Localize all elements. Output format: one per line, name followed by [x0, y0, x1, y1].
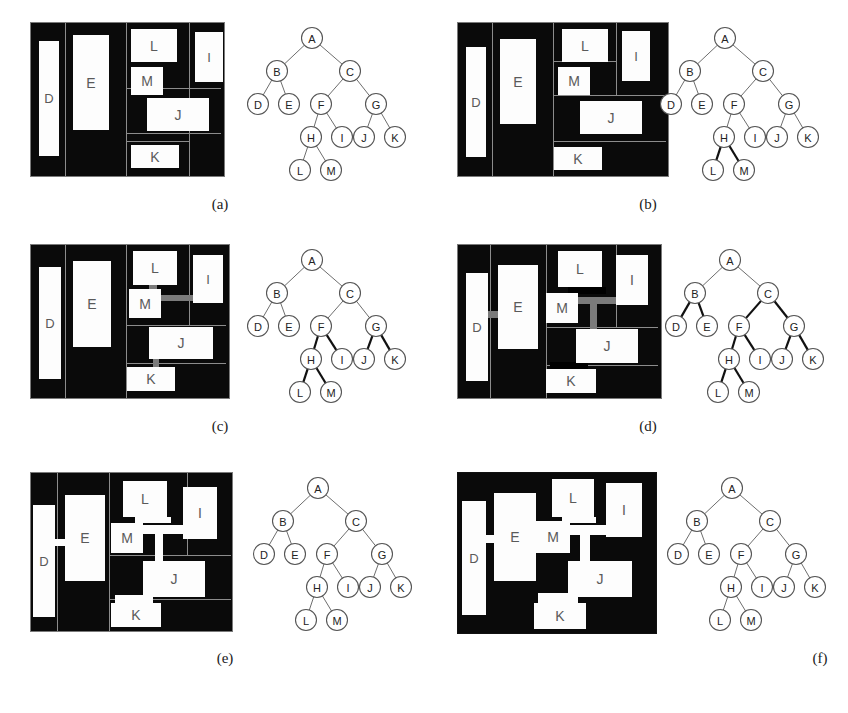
floorplan-block-J[interactable]: J [143, 561, 205, 597]
tree-node-J: J [354, 349, 375, 370]
floorplan-block-D[interactable]: D [33, 505, 55, 617]
tree-edge-G-J [368, 114, 373, 127]
floorplan-block-J[interactable]: J [568, 561, 632, 597]
tree-node-label: D [260, 549, 268, 561]
floorplan-block-E[interactable]: E [73, 261, 111, 347]
floorplan-block-label: K [573, 152, 582, 166]
tree-node-label: E [705, 549, 712, 561]
tree-edge-C-F [748, 529, 763, 546]
tree-node-label: K [397, 582, 405, 594]
tree-edge-B-E [287, 531, 292, 544]
floorplan-block-label: L [581, 39, 589, 53]
floorplan-block-I[interactable]: I [195, 32, 223, 82]
floorplan-block-L[interactable]: L [552, 479, 594, 517]
floorplan-block-J[interactable]: J [576, 329, 638, 363]
tree-node-label: K [391, 132, 399, 144]
tree-node-label: G [785, 99, 794, 111]
floorplan-block-D[interactable]: D [466, 47, 486, 157]
floorplan-block-K[interactable]: K [534, 603, 586, 629]
floorplan-block-label: L [569, 491, 577, 505]
tree-edge-A-B [285, 45, 305, 64]
caption-a: (a) [200, 196, 240, 213]
tree-node-E: E [285, 544, 306, 565]
tree-edge-G-K [799, 335, 808, 350]
floorplan-block-I[interactable]: I [622, 31, 650, 81]
floorplan-block-M[interactable]: M [111, 523, 143, 553]
tree-edge-A-B [698, 45, 718, 64]
slicing-tree-f: ABCDEFGHIJKLM [672, 476, 842, 644]
floorplan-block-I[interactable]: I [606, 483, 642, 537]
tree-node-K: K [798, 127, 819, 148]
floorplan-block-I[interactable]: I [193, 255, 223, 303]
tree-node-G: G [366, 316, 387, 337]
floorplan-block-K[interactable]: K [111, 603, 161, 627]
floorplan-block-D[interactable]: D [39, 267, 61, 379]
tree-node-label: F [318, 321, 325, 333]
floorplan-block-D[interactable]: D [39, 41, 59, 156]
tree-node-A: A [722, 478, 743, 499]
floorplan-block-D[interactable]: D [466, 273, 488, 381]
floorplan-block-J[interactable]: J [149, 327, 213, 359]
tree-node-label: D [254, 321, 262, 333]
floorplan-block-L[interactable]: L [123, 481, 167, 517]
floorplan-block-M[interactable]: M [536, 521, 570, 553]
floorplan-e: DELMIJK [30, 472, 233, 632]
floorplan-block-E[interactable]: E [494, 493, 536, 581]
floorplan-block-L[interactable]: L [131, 29, 177, 62]
tree-node-label: E [698, 99, 705, 111]
tree-node-M: M [739, 382, 760, 403]
tree-node-label: B [691, 288, 698, 300]
tree-container-a: ABCDEFGHIJKLM [252, 26, 422, 194]
tree-node-label: F [318, 99, 325, 111]
floorplan-block-K[interactable]: K [127, 367, 175, 391]
tree-node-I: I [332, 127, 353, 148]
floorplan-block-I[interactable]: I [616, 255, 648, 305]
floorplan-block-J[interactable]: J [580, 101, 642, 134]
tree-node-D: D [248, 316, 269, 337]
floorplan-block-I[interactable]: I [183, 487, 217, 539]
floorplan-block-M[interactable]: M [546, 293, 578, 323]
floorplan-block-J[interactable]: J [147, 98, 209, 131]
tree-node-label: B [686, 66, 693, 78]
floorplan-block-E[interactable]: E [500, 39, 536, 124]
floorplan-block-M[interactable]: M [131, 67, 163, 95]
tree-node-A: A [308, 478, 329, 499]
floorplan-block-D[interactable]: D [462, 501, 486, 615]
floorplan-block-K[interactable]: K [554, 147, 602, 170]
tree-edge-G-K [794, 113, 803, 128]
floorplan-block-label: M [547, 530, 559, 544]
tree-node-C: C [753, 61, 774, 82]
tree-node-label: C [352, 516, 360, 528]
floorplan-block-E[interactable]: E [498, 265, 538, 349]
tree-node-label: I [760, 582, 763, 594]
floorplan-block-L[interactable]: L [133, 251, 177, 285]
floorplan-block-M[interactable]: M [129, 289, 161, 318]
floorplan-block-label: J [597, 572, 604, 586]
tree-node-D: D [254, 544, 275, 565]
tree-edge-C-F [328, 301, 343, 318]
tree-node-label: H [313, 582, 321, 594]
tree-edge-G-J [368, 336, 373, 349]
tree-node-label: F [738, 549, 745, 561]
floorplan-block-L[interactable]: L [558, 251, 602, 287]
floorplan-block-label: K [566, 374, 575, 388]
floorplan-block-L[interactable]: L [562, 29, 608, 62]
floorplan-block-label: L [150, 39, 158, 53]
tree-node-label: C [346, 288, 354, 300]
tree-node-label: K [391, 354, 399, 366]
floorplan-block-E[interactable]: E [73, 35, 109, 130]
tree-edge-B-E [281, 81, 286, 94]
tree-node-label: M [746, 615, 755, 627]
floorplan-d: DELMIJK [457, 244, 662, 399]
tree-edge-B-E [699, 303, 704, 316]
slice-line [126, 363, 226, 364]
floorplan-block-K[interactable]: K [131, 145, 179, 168]
floorplan-block-K[interactable]: K [546, 369, 596, 393]
floorplan-block-M[interactable]: M [558, 67, 590, 95]
tree-node-J: J [360, 577, 381, 598]
floorplan-block-E[interactable]: E [65, 495, 105, 581]
tree-edge-H-L [723, 597, 727, 610]
tree-node-label: D [667, 99, 675, 111]
tree-node-label: E [291, 549, 298, 561]
tree-node-D: D [248, 94, 269, 115]
